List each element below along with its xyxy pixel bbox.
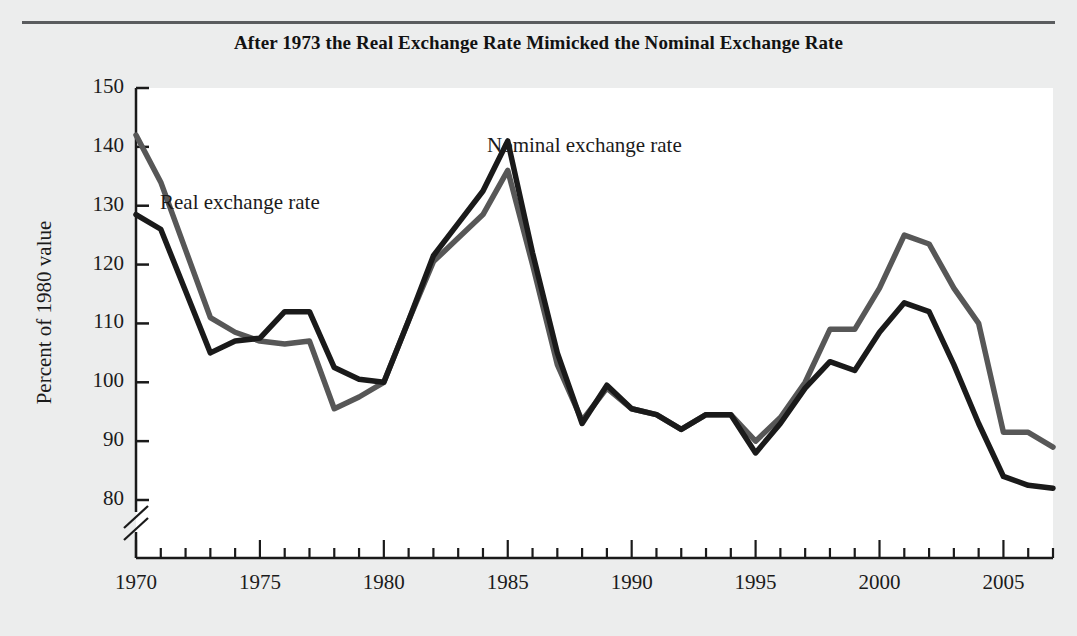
y-tick-label: 150: [66, 74, 124, 99]
y-tick-label: 140: [66, 133, 124, 158]
plot-area: Percent of 1980 value 809010011012013014…: [0, 0, 1077, 636]
y-tick-label: 80: [66, 486, 124, 511]
y-axis-title: Percent of 1980 value: [32, 203, 57, 423]
series-label-real: Real exchange rate: [160, 190, 320, 215]
y-tick-label: 110: [66, 309, 124, 334]
x-tick-label: 2005: [958, 570, 1048, 595]
figure-container: After 1973 the Real Exchange Rate Mimick…: [0, 0, 1077, 636]
x-tick-label: 2000: [835, 570, 925, 595]
x-tick-label: 1995: [711, 570, 801, 595]
x-tick-label: 1990: [587, 570, 677, 595]
y-tick-label: 130: [66, 192, 124, 217]
x-tick-label: 1980: [339, 570, 429, 595]
x-tick-label: 1970: [91, 570, 181, 595]
chart-svg: [0, 0, 1077, 636]
series-label-nominal: Nominal exchange rate: [487, 133, 682, 158]
x-tick-label: 1975: [215, 570, 305, 595]
y-tick-label: 120: [66, 251, 124, 276]
x-tick-label: 1985: [463, 570, 553, 595]
y-tick-label: 90: [66, 427, 124, 452]
y-tick-label: 100: [66, 368, 124, 393]
